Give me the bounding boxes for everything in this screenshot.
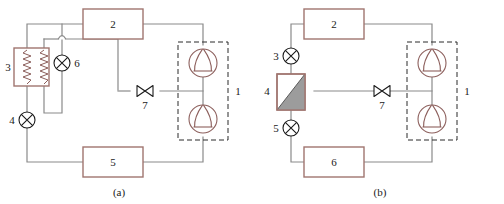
panel-a: 2 3 6 4 7 5 1 (a) — [5, 9, 241, 199]
panel-a-piping — [27, 24, 203, 162]
component-box-2-a-label: 2 — [110, 18, 116, 30]
compressor-upper-a — [189, 49, 217, 77]
panel-b-caption: (b) — [374, 186, 387, 199]
compressor-group-1-b-label: 1 — [464, 85, 470, 97]
panel-a-caption: (a) — [113, 186, 126, 199]
bowtie-valve-7-b-label: 7 — [379, 99, 385, 111]
valve-6-a-label: 6 — [74, 57, 80, 69]
heat-exchanger-3-a[interactable] — [14, 48, 49, 86]
valve-5-b-label: 5 — [273, 122, 279, 134]
valve-4-a-label: 4 — [9, 114, 15, 126]
compressor-lower-a — [189, 105, 217, 133]
valve-5-b[interactable] — [283, 120, 299, 136]
component-box-2-b-label: 2 — [331, 18, 337, 30]
bowtie-valve-7-a[interactable] — [137, 86, 153, 97]
figure-canvas: 2 3 6 4 7 5 1 (a) — [0, 0, 504, 204]
bowtie-valve-7-b[interactable] — [374, 86, 390, 97]
panel-b: 2 3 4 5 7 6 1 (b) — [264, 9, 470, 199]
compressor-lower-b — [418, 105, 446, 133]
valve-6-a[interactable] — [54, 55, 70, 71]
compressor-upper-b — [418, 49, 446, 77]
panel-b-piping — [291, 24, 432, 162]
valve-3-b[interactable] — [283, 48, 299, 64]
compressor-group-1-a-label: 1 — [235, 85, 241, 97]
component-box-6-b-label: 6 — [331, 156, 337, 168]
half-shaded-component-4-b-label: 4 — [264, 85, 270, 97]
bowtie-valve-7-a-label: 7 — [142, 99, 148, 111]
heat-exchanger-3-a-label: 3 — [5, 61, 11, 73]
half-shaded-component-4-b[interactable] — [277, 74, 305, 110]
valve-3-b-label: 3 — [273, 50, 279, 62]
component-box-5-a-label: 5 — [110, 156, 116, 168]
valve-4-a[interactable] — [19, 112, 35, 128]
schematic-svg: 2 3 6 4 7 5 1 (a) — [0, 0, 504, 204]
